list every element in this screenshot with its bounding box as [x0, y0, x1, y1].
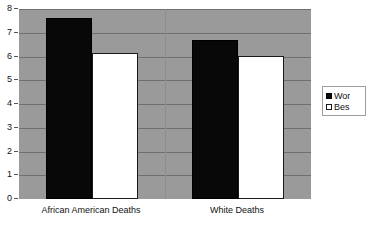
legend-label: Wor	[334, 91, 350, 101]
plot-area	[18, 8, 312, 200]
bar-worst	[46, 18, 92, 199]
y-axis-tick-label: 4	[7, 99, 12, 108]
y-axis-tick-label: 0	[7, 194, 12, 203]
bar-best	[238, 56, 284, 199]
x-axis-tick-label: White Deaths	[210, 205, 264, 216]
x-axis: African American DeathsWhite Deaths	[18, 205, 312, 225]
x-axis-tick-label: African American Deaths	[41, 205, 140, 216]
y-axis-tick-label: 2	[7, 146, 12, 155]
legend-swatch-worst-icon	[326, 93, 332, 99]
y-axis-tick-label: 1	[7, 170, 12, 179]
legend-swatch-best-icon	[326, 104, 332, 110]
y-axis-tick-label: 3	[7, 122, 12, 131]
chart-legend: Wor Bes	[322, 86, 366, 116]
bar-worst	[192, 40, 238, 199]
category-separator	[165, 9, 166, 199]
y-axis-tick-label: 8	[7, 4, 12, 13]
y-axis-tick-label: 6	[7, 51, 12, 60]
legend-item[interactable]: Wor	[326, 90, 363, 101]
legend-label: Bes	[334, 102, 350, 112]
legend-item[interactable]: Bes	[326, 101, 363, 112]
y-axis-tick-label: 7	[7, 27, 12, 36]
gridline	[19, 199, 311, 200]
bar-best	[92, 53, 138, 199]
y-axis: 876543210	[0, 0, 18, 208]
y-axis-tick-label: 5	[7, 75, 12, 84]
